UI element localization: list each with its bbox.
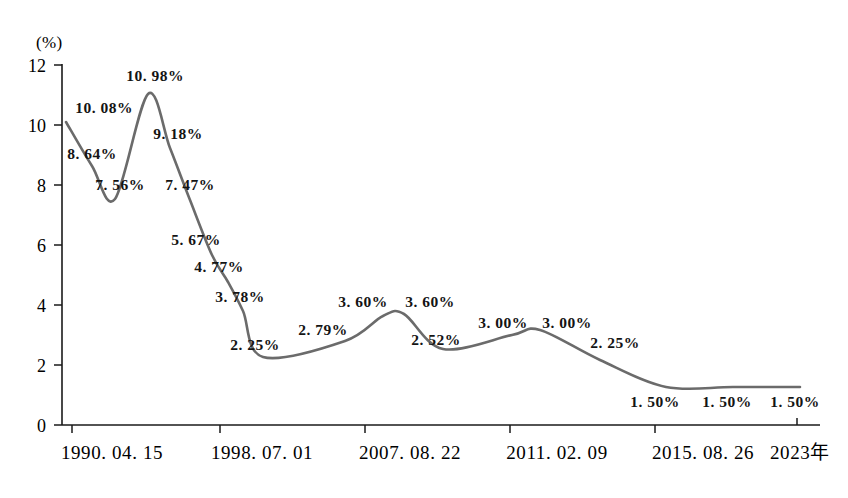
data-point-label: 7. 56% [95, 176, 145, 193]
y-tick-label-12: 12 [28, 56, 46, 76]
data-point-label: 3. 00% [478, 314, 528, 331]
data-point-label: 3. 60% [338, 293, 388, 310]
data-point-label: 7. 47% [165, 176, 215, 193]
data-point-label: 4. 77% [194, 258, 244, 275]
x-tick-label-6: 2023年 [770, 442, 830, 463]
data-point-label: 2. 25% [590, 334, 640, 351]
data-point-label: 10. 08% [75, 99, 133, 116]
data-point-label: 10. 98% [126, 67, 184, 84]
data-point-labels: 10. 08%8. 64%7. 56%10. 98%9. 18%7. 47%5.… [67, 67, 820, 410]
x-tick-label-1: 1990. 04. 15 [61, 442, 163, 463]
y-tick-label-4: 4 [37, 296, 46, 316]
data-point-label: 2. 52% [411, 331, 461, 348]
data-point-label: 8. 64% [67, 145, 117, 162]
y-tick-label-10: 10 [28, 116, 46, 136]
data-point-label: 3. 78% [215, 288, 265, 305]
data-point-label: 1. 50% [702, 393, 752, 410]
x-axis-labels: 1990. 04. 15 1998. 07. 01 2007. 08. 22 2… [61, 442, 830, 463]
x-tick-label-2: 1998. 07. 01 [211, 442, 313, 463]
data-point-label: 3. 60% [405, 293, 455, 310]
data-point-label: 9. 18% [153, 125, 203, 142]
x-tick-label-5: 2015. 08. 26 [652, 442, 754, 463]
y-tick-label-2: 2 [37, 356, 46, 376]
data-point-label: 1. 50% [770, 393, 820, 410]
data-point-label: 2. 79% [298, 321, 348, 338]
y-tick-label-6: 6 [37, 236, 46, 256]
data-point-label: 5. 67% [171, 231, 221, 248]
data-point-label: 1. 50% [630, 393, 680, 410]
y-axis-unit-label: (%) [36, 33, 63, 52]
y-tick-label-8: 8 [37, 176, 46, 196]
y-tick-label-0: 0 [37, 416, 46, 436]
data-point-label: 3. 00% [542, 314, 592, 331]
chart-page: (%) 0 2 4 6 8 10 12 [0, 0, 848, 498]
x-tick-label-3: 2007. 08. 22 [359, 442, 461, 463]
x-tick-label-4: 2011. 02. 09 [506, 442, 608, 463]
interest-rate-line-chart: (%) 0 2 4 6 8 10 12 [0, 0, 848, 498]
y-axis-ticks: 0 2 4 6 8 10 12 [28, 56, 62, 436]
data-point-label: 2. 25% [230, 336, 280, 353]
